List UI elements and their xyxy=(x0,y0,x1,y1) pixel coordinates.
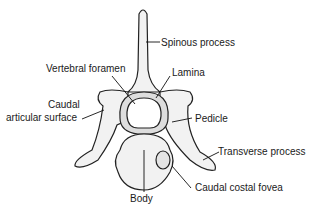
vertebra-diagram: Spinous process Vertebral foramen Lamina… xyxy=(0,0,310,208)
label-transverse-process: Transverse process xyxy=(218,146,305,157)
label-lamina: Lamina xyxy=(172,67,205,78)
label-caudal: Caudal xyxy=(48,99,80,110)
label-pedicle: Pedicle xyxy=(195,113,228,124)
label-vertebral-foramen: Vertebral foramen xyxy=(46,63,126,74)
label-spinous-process: Spinous process xyxy=(161,37,235,48)
caudal-costal-fovea-shape xyxy=(156,151,170,169)
label-body: Body xyxy=(130,193,153,204)
vertebra-illustration xyxy=(0,0,310,208)
label-articular-surface: articular surface xyxy=(6,112,77,123)
label-caudal-costal-fovea: Caudal costal fovea xyxy=(195,182,283,193)
vertebral-foramen-shape xyxy=(127,98,161,128)
spinous-process-shape xyxy=(128,10,160,92)
